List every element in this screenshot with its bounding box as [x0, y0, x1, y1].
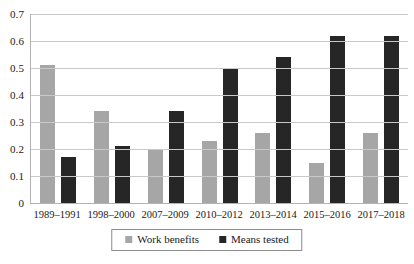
bar-chart: 00.10.20.30.40.50.60.7 1989–19911998–200… — [0, 0, 414, 264]
gridline — [31, 122, 408, 123]
bar-group — [193, 14, 247, 203]
bar-group — [246, 14, 300, 203]
x-axis-tick-label: 2010–2012 — [192, 205, 246, 225]
bar-means-tested[interactable] — [115, 146, 130, 203]
y-axis-tick-label: 0.7 — [10, 9, 24, 20]
bar-work-benefits[interactable] — [40, 65, 55, 203]
bar-group — [139, 14, 193, 203]
bar-means-tested[interactable] — [223, 68, 238, 203]
plot-wrapper: 00.10.20.30.40.50.60.7 — [0, 0, 414, 212]
bar-group — [354, 14, 408, 203]
bar-group — [31, 14, 85, 203]
gridline — [31, 68, 408, 69]
x-axis: 1989–19911998–20002007–20092010–20122013… — [30, 205, 408, 225]
bar-groups — [31, 14, 408, 203]
legend-swatch-icon — [219, 236, 226, 243]
bar-work-benefits[interactable] — [202, 141, 217, 203]
chart-legend: Work benefitsMeans tested — [111, 229, 302, 251]
y-axis-tick-label: 0 — [18, 198, 24, 209]
legend-label: Means tested — [231, 234, 289, 245]
x-axis-tick-label: 2007–2009 — [138, 205, 192, 225]
legend-swatch-icon — [125, 236, 132, 243]
bar-means-tested[interactable] — [384, 36, 399, 203]
bar-work-benefits[interactable] — [94, 111, 109, 203]
bar-group — [85, 14, 139, 203]
legend-item[interactable]: Work benefits — [125, 234, 199, 245]
y-axis-tick-label: 0.2 — [10, 144, 24, 155]
bar-group — [300, 14, 354, 203]
x-axis-tick-label: 2017–2018 — [354, 205, 408, 225]
gridline — [31, 176, 408, 177]
bar-work-benefits[interactable] — [255, 133, 270, 203]
y-axis-tick-label: 0.6 — [10, 36, 24, 47]
gridline — [31, 203, 408, 204]
x-axis-tick-label: 1989–1991 — [30, 205, 84, 225]
gridline — [31, 149, 408, 150]
bar-means-tested[interactable] — [169, 111, 184, 203]
x-axis-tick-label: 2013–2014 — [246, 205, 300, 225]
y-axis-tick-label: 0.4 — [10, 90, 24, 101]
x-axis-tick-label: 1998–2000 — [84, 205, 138, 225]
gridline — [31, 41, 408, 42]
bar-means-tested[interactable] — [61, 157, 76, 203]
y-axis-tick-label: 0.1 — [10, 171, 24, 182]
legend-item[interactable]: Means tested — [219, 234, 289, 245]
gridline — [31, 14, 408, 15]
y-axis: 00.10.20.30.40.50.60.7 — [0, 0, 26, 212]
bar-work-benefits[interactable] — [309, 163, 324, 204]
y-axis-tick-label: 0.5 — [10, 63, 24, 74]
bar-work-benefits[interactable] — [363, 133, 378, 203]
gridline — [31, 95, 408, 96]
y-axis-tick-label: 0.3 — [10, 117, 24, 128]
bar-means-tested[interactable] — [330, 36, 345, 203]
x-axis-tick-label: 2015–2016 — [300, 205, 354, 225]
plot-area — [30, 14, 408, 204]
legend-label: Work benefits — [137, 234, 199, 245]
bar-means-tested[interactable] — [276, 57, 291, 203]
